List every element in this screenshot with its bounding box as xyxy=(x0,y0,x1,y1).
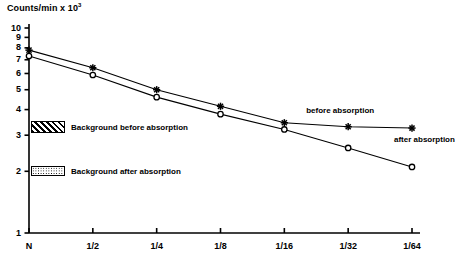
data-point-marker xyxy=(345,145,350,150)
x-axis-tick-label: 1/2 xyxy=(73,242,113,251)
data-point-marker xyxy=(90,72,95,77)
y-axis-tick-label: 4 xyxy=(5,105,21,114)
background-band-label: Background after absorption xyxy=(71,167,181,176)
x-axis-tick-label: N xyxy=(9,242,49,251)
y-axis-tick-label: 5 xyxy=(5,85,21,94)
data-point-marker xyxy=(282,127,287,132)
background-band-swatch xyxy=(31,166,65,177)
data-point-marker xyxy=(281,119,288,126)
data-point-marker xyxy=(25,47,32,54)
y-axis-tick-label: 3 xyxy=(5,131,21,140)
data-point-marker xyxy=(217,103,224,110)
y-axis-tick-label: 2 xyxy=(5,167,21,176)
x-axis-tick-label: 1/8 xyxy=(201,242,241,251)
x-axis-tick-label: 1/16 xyxy=(264,242,304,251)
background-band-label: Background before absorption xyxy=(71,123,188,132)
series-annotation-label: before absorption xyxy=(306,106,374,115)
data-point-marker xyxy=(89,64,96,71)
y-axis-tick-label: 6 xyxy=(5,69,21,78)
y-axis-tick-label: 9 xyxy=(5,33,21,42)
x-axis-tick-label: 1/4 xyxy=(137,242,177,251)
data-point-marker xyxy=(409,164,414,169)
data-point-marker xyxy=(153,86,160,93)
y-axis-tick-label: 1 xyxy=(5,229,21,238)
data-point-marker xyxy=(26,53,31,58)
x-axis-tick-label: 1/64 xyxy=(392,242,432,251)
y-axis-tick-label: 7 xyxy=(5,55,21,64)
data-point-marker xyxy=(218,111,223,116)
data-point-marker xyxy=(408,124,415,131)
background-band-swatch xyxy=(31,121,65,133)
series-annotation-label: after absorption xyxy=(394,135,455,144)
data-point-marker xyxy=(154,94,159,99)
data-point-marker xyxy=(345,123,352,130)
y-axis-tick-label: 8 xyxy=(5,43,21,52)
x-axis-tick-label: 1/32 xyxy=(328,242,368,251)
